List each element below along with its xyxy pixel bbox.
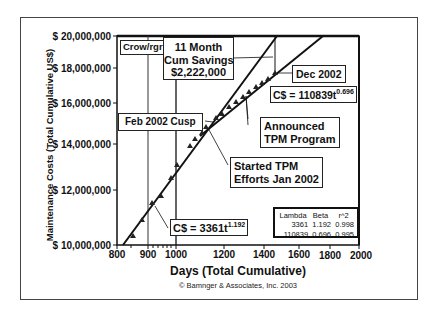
x-tick-label: 800 [109,249,126,260]
x-tick-label: 1600 [288,249,310,260]
started-line-2: Efforts Jan 2002 [234,173,319,186]
annotation-started-tpm: Started TPM Efforts Jan 2002 [230,157,323,188]
savings-line-1: 11 Month [164,41,233,54]
table-cell: 0.995 [332,230,355,239]
annotation-equation-post: C$ = 110839t0.696 [270,86,357,103]
savings-line-2: Cum Savings [164,54,233,67]
y-tick-label: $ 20,000,000 [53,31,111,42]
savings-line-3: $2,222,000 [164,66,233,79]
data-points [130,70,278,238]
table-cell: 110839 [277,230,309,239]
y-tick-label: $ 10,000,000 [53,240,111,251]
x-tick-label: 900 [140,249,157,260]
table-cell: 3361 [277,220,309,229]
annotation-announced-tpm: Announced TPM Program [260,117,340,148]
header-beta: Beta [309,211,332,220]
annotation-equation-pre: C$ = 3361t1.192 [170,219,248,236]
equation-post-base: C$ = 110839t [273,89,336,101]
x-tick-label: 2000 [350,250,372,261]
y-tick-label: $ 14,000,000 [53,139,111,150]
parameters-table: Lambda Beta r^2 3361 1.192 0.998 110839 … [273,207,359,238]
y-axis-label: Maintenance Costs (Total Cumulative US$) [44,49,55,242]
annotation-dec-2002: Dec 2002 [292,65,346,83]
announced-line-1: Announced [264,120,336,133]
annotation-feb-2002-cusp: Feb 2002 Cusp [118,113,203,131]
equation-pre-base: C$ = 3361t [173,222,228,234]
table-cell: 1.192 [309,220,332,229]
x-tick-label: 1400 [253,249,275,260]
y-tick-label: $ 18,000,000 [53,63,111,74]
x-tick-label: 1000 [165,249,187,260]
equation-post-exponent: 0.696 [336,88,354,95]
started-line-1: Started TPM [234,160,319,173]
announced-line-2: TPM Program [264,133,336,146]
table-cell: 0.998 [332,220,355,229]
x-tick-label: 1200 [213,249,235,260]
header-lambda: Lambda [277,211,309,220]
y-tick-label: $ 12,000,000 [53,185,111,196]
header-r2: r^2 [332,211,355,220]
x-tick-label: 1800 [319,250,341,261]
table-cell: 0.696 [309,230,332,239]
copyright-note: © Bamnger & Associates, Inc. 2003 [179,281,297,290]
annotation-crow-rgr: Crow/rgr [120,40,166,55]
equation-pre-exponent: 1.192 [228,221,246,228]
annotation-cum-savings: 11 Month Cum Savings $2,222,000 [163,37,234,80]
y-tick-label: $ 16,000,000 [53,98,111,109]
x-axis-label: Days (Total Cumulative) [170,264,306,278]
